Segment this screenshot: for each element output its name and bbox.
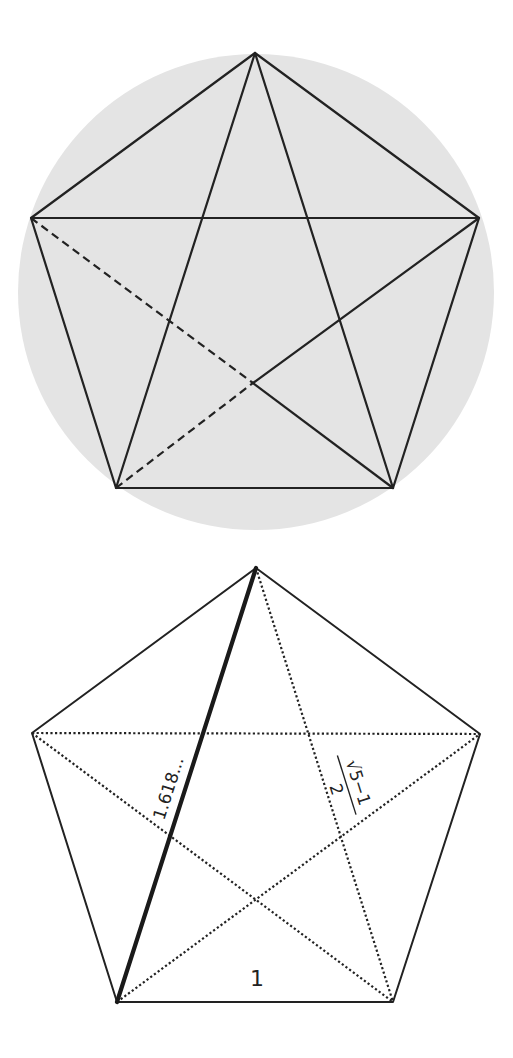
pentagon-outline [32,568,480,1002]
label-golden-ratio: 1.618... [149,754,188,822]
dotted-diagonal-left-bottomright [32,733,393,1002]
dotted-diagonal-top-bottomright [256,568,393,1002]
label-side-length: 1 [250,966,264,991]
figure-bottom: 1.618... √5−1 2 1 [0,0,513,1058]
dotted-diagonal-left-right [32,733,480,734]
label-fraction-numerator: √5−1 [342,757,375,808]
label-fraction-denominator: 2 [325,781,347,797]
bold-diagonal-top-bottomleft [117,568,256,1002]
